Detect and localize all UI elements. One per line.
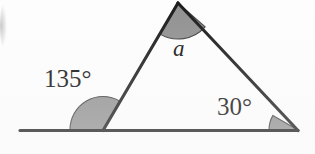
angle-label-135-degrees: 135° (44, 66, 92, 91)
triangle-left-side (103, 3, 178, 131)
angle-label-30-degrees: 30° (217, 94, 252, 119)
angle-wedges (70, 3, 298, 130)
geometry-figure: 135° a 30° (0, 0, 315, 154)
angle-label-a: a (173, 37, 185, 60)
